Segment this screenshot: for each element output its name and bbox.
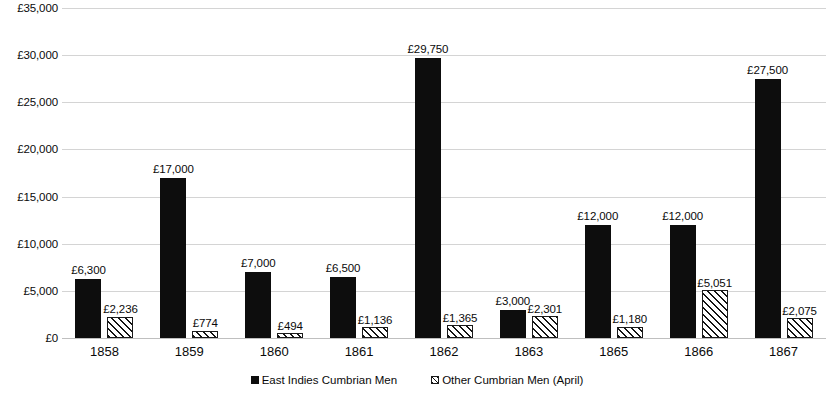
bar: £1,136 (362, 327, 388, 338)
bar-pair: £6,300£2,236 (62, 8, 147, 338)
bar-group: £12,000£5,051 (656, 8, 741, 338)
bar-value-label: £27,500 (747, 64, 788, 77)
bar-group: £6,500£1,136 (317, 8, 402, 338)
bar: £1,180 (617, 327, 643, 338)
y-axis-tick-label: £10,000 (2, 238, 64, 250)
bar-value-label: £1,365 (443, 312, 478, 325)
bar-group: £7,000£494 (232, 8, 317, 338)
x-axis-tick-label: 1862 (402, 344, 487, 359)
bar: £29,750 (415, 58, 441, 339)
legend-item[interactable]: East Indies Cumbrian Men (251, 374, 398, 386)
bar-value-label: £774 (193, 317, 218, 330)
bar: £774 (192, 331, 218, 338)
bar-group: £27,500£2,075 (741, 8, 826, 338)
legend-item[interactable]: Other Cumbrian Men (April) (431, 374, 583, 386)
bar-group: £3,000£2,301 (486, 8, 571, 338)
bar: £5,051 (702, 290, 728, 338)
plot-area: £6,300£2,236£17,000£774£7,000£494£6,500£… (62, 8, 826, 338)
bar: £27,500 (755, 79, 781, 338)
bar: £3,000 (500, 310, 526, 338)
bar-value-label: £12,000 (662, 210, 703, 223)
bar: £6,300 (75, 279, 101, 338)
bar-pair: £6,500£1,136 (317, 8, 402, 338)
y-axis-tick-label: £5,000 (2, 285, 64, 297)
x-axis-tick-label: 1865 (571, 344, 656, 359)
bar-value-label: £6,300 (71, 264, 106, 277)
bar: £494 (277, 333, 303, 338)
bar-value-label: £494 (278, 320, 303, 333)
bar-value-label: £5,051 (697, 277, 732, 290)
bar-pair: £27,500£2,075 (741, 8, 826, 338)
bar: £2,301 (532, 316, 558, 338)
y-axis-tick-label: £20,000 (2, 143, 64, 155)
bar-pair: £12,000£1,180 (571, 8, 656, 338)
gridline (62, 338, 826, 339)
bar: £17,000 (160, 178, 186, 338)
x-axis-tick-label: 1859 (147, 344, 232, 359)
x-axis-tick-label: 1858 (62, 344, 147, 359)
y-axis-tick-label: £0 (2, 332, 64, 344)
x-axis-tick-label: 1863 (486, 344, 571, 359)
bar-value-label: £1,136 (358, 314, 393, 327)
bar: £2,075 (787, 318, 813, 338)
x-axis-tick-label: 1860 (232, 344, 317, 359)
bar-value-label: £3,000 (496, 295, 531, 308)
bar-value-label: £17,000 (153, 163, 194, 176)
bar-group: £29,750£1,365 (402, 8, 487, 338)
bar-value-label: £29,750 (408, 43, 449, 56)
y-axis-tick-label: £30,000 (2, 49, 64, 61)
bar-value-label: £7,000 (241, 257, 276, 270)
bar-value-label: £2,075 (782, 305, 817, 318)
x-axis-tick-label: 1866 (656, 344, 741, 359)
bar-chart: £0£5,000£10,000£15,000£20,000£25,000£30,… (0, 0, 834, 402)
chart-legend: East Indies Cumbrian MenOther Cumbrian M… (0, 374, 834, 386)
bar-group: £6,300£2,236 (62, 8, 147, 338)
legend-swatch-solid-icon (251, 376, 259, 384)
legend-label: East Indies Cumbrian Men (262, 374, 398, 386)
bar: £1,365 (447, 325, 473, 338)
bar: £7,000 (245, 272, 271, 338)
y-axis-tick-label: £15,000 (2, 191, 64, 203)
bar-value-label: £6,500 (326, 262, 361, 275)
bar-value-label: £2,236 (103, 303, 138, 316)
legend-label: Other Cumbrian Men (April) (442, 374, 583, 386)
bar: £6,500 (330, 277, 356, 338)
bar-value-label: £12,000 (577, 210, 618, 223)
bar: £2,236 (107, 317, 133, 338)
x-axis-tick-label: 1861 (317, 344, 402, 359)
bar-pair: £29,750£1,365 (402, 8, 487, 338)
y-axis-tick-label: £25,000 (2, 96, 64, 108)
bar-pair: £7,000£494 (232, 8, 317, 338)
bar-group: £17,000£774 (147, 8, 232, 338)
bar: £12,000 (670, 225, 696, 338)
bar-pair: £17,000£774 (147, 8, 232, 338)
bar-value-label: £2,301 (528, 303, 563, 316)
legend-swatch-hatch-icon (431, 376, 439, 384)
bar: £12,000 (585, 225, 611, 338)
bar-value-label: £1,180 (612, 313, 647, 326)
bar-group: £12,000£1,180 (571, 8, 656, 338)
x-axis-tick-label: 1867 (741, 344, 826, 359)
bar-pair: £3,000£2,301 (486, 8, 571, 338)
bar-pair: £12,000£5,051 (656, 8, 741, 338)
y-axis-tick-label: £35,000 (2, 2, 64, 14)
